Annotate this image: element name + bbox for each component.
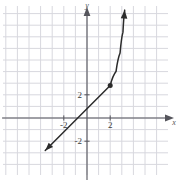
coordinate-plane: -2 2 2 -2 x y [0, 0, 178, 186]
x-tick-label-neg2: -2 [60, 120, 68, 130]
y-axis-label: y [84, 1, 89, 10]
graph-figure: -2 2 2 -2 x y [0, 0, 178, 186]
x-axis-label: x [171, 118, 176, 127]
y-tick-label-neg2: -2 [75, 136, 83, 146]
x-tick-label-2: 2 [108, 120, 113, 130]
y-tick-label-2: 2 [78, 90, 83, 100]
canvas-background [0, 0, 178, 186]
endpoint-dot [108, 83, 113, 88]
